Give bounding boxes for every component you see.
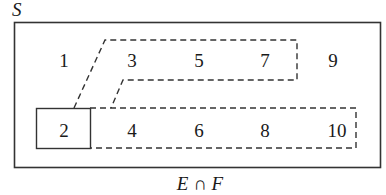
universe-frame — [15, 23, 381, 168]
element-1: 1 — [59, 50, 69, 71]
universe-label: S — [12, 0, 22, 20]
element-5: 5 — [194, 50, 204, 71]
venn-diagram: S 1 3 5 7 9 2 4 6 8 10 E ∩ F — [0, 0, 386, 195]
element-3: 3 — [127, 50, 137, 71]
element-6: 6 — [194, 120, 204, 141]
element-7: 7 — [260, 50, 270, 71]
element-8: 8 — [260, 120, 270, 141]
element-10: 10 — [328, 120, 347, 141]
element-9: 9 — [328, 50, 338, 71]
element-4: 4 — [127, 120, 137, 141]
caption: E ∩ F — [176, 173, 224, 194]
element-2: 2 — [59, 120, 69, 141]
